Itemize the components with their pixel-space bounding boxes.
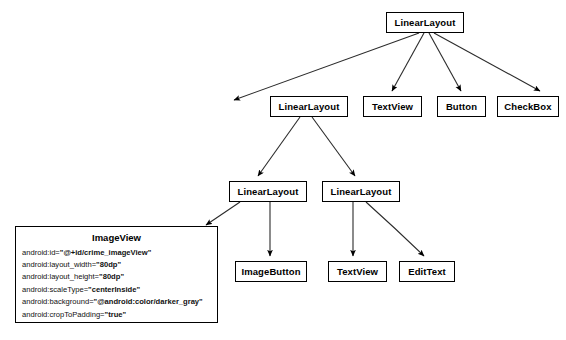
attribute-name: android:cropToPadding= [22, 310, 105, 319]
node-label: Button [446, 101, 477, 112]
edge-root-to-button-1 [429, 33, 461, 91]
node-label: LinearLayout [331, 186, 392, 197]
node-label: EditText [408, 266, 446, 277]
node-ll-a[interactable]: LinearLayout [270, 96, 348, 117]
node-label: LinearLayout [279, 101, 340, 112]
attribute-row: android:background="@android:color/darke… [16, 296, 217, 308]
imageview-detail-title: ImageView [16, 231, 217, 246]
node-label: TextView [372, 101, 413, 112]
attribute-value: "centerInside" [88, 285, 140, 294]
node-label: CheckBox [504, 101, 551, 112]
node-checkbox-1[interactable]: CheckBox [497, 96, 559, 117]
attribute-row: android:id="@+id/crime_imageView" [16, 246, 217, 258]
node-ll-b[interactable]: LinearLayout [229, 181, 307, 202]
node-label: ImageButton [241, 266, 300, 277]
tree-edges [206, 33, 540, 256]
attribute-row: android:cropToPadding="true" [16, 308, 217, 320]
imageview-detail-box: ImageView android:id="@+id/crime_imageVi… [15, 226, 218, 323]
node-label: TextView [337, 266, 378, 277]
attribute-value: "@+id/crime_imageView" [60, 248, 152, 257]
node-textview-1[interactable]: TextView [363, 96, 422, 117]
attribute-value: "true" [105, 310, 127, 319]
attribute-value: "@android:color/darker_gray" [94, 297, 203, 306]
attribute-row: android:scaleType="centerInside" [16, 283, 217, 295]
node-label: LinearLayout [238, 186, 299, 197]
edge-root-to-textview-1 [392, 33, 424, 91]
edge-root-to-ll-a [234, 33, 419, 100]
node-textview-2[interactable]: TextView [328, 261, 387, 282]
edge-ll-a-to-ll-b [258, 117, 300, 176]
node-button-1[interactable]: Button [437, 96, 486, 117]
node-root[interactable]: LinearLayout [386, 12, 464, 33]
attribute-row: android:layout_width="80dp" [16, 258, 217, 270]
attribute-value: "80dp" [99, 272, 124, 281]
attribute-row: android:layout_height="80dp" [16, 271, 217, 283]
imageview-attribute-list: android:id="@+id/crime_imageView"android… [16, 246, 217, 320]
edge-root-to-checkbox-1 [434, 33, 540, 91]
attribute-name: android:layout_width= [22, 260, 96, 269]
attribute-name: android:layout_height= [22, 272, 99, 281]
node-label: LinearLayout [395, 17, 456, 28]
edge-ll-c-to-edittext [366, 202, 424, 256]
edge-ll-a-to-ll-c [312, 117, 355, 176]
attribute-name: android:id= [22, 248, 60, 257]
node-edittext[interactable]: EditText [399, 261, 455, 282]
node-imagebutton[interactable]: ImageButton [235, 261, 307, 282]
attribute-name: android:scaleType= [22, 285, 88, 294]
node-ll-c[interactable]: LinearLayout [322, 181, 400, 202]
attribute-value: "80dp" [96, 260, 121, 269]
edge-ll-b-to-imageview [206, 202, 240, 225]
attribute-name: android:background= [22, 297, 94, 306]
view-hierarchy-diagram: LinearLayoutLinearLayoutTextViewButtonCh… [0, 0, 566, 340]
